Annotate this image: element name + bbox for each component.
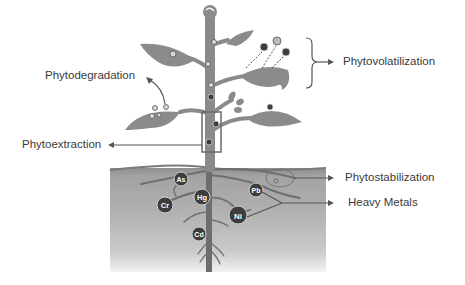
stem bbox=[203, 5, 217, 172]
metal-label-as: As bbox=[177, 176, 186, 183]
bud-2 bbox=[235, 97, 245, 106]
metal-label-pb: Pb bbox=[252, 187, 261, 194]
label-heavy-metals: Heavy Metals bbox=[348, 197, 418, 209]
soil-block bbox=[110, 165, 326, 272]
leaf-mid-right bbox=[240, 67, 289, 90]
taproot bbox=[206, 168, 212, 272]
label-phytostabilization: Phytostabilization bbox=[345, 172, 435, 184]
metal-label-cd: Cd bbox=[194, 231, 203, 238]
metal-label-cr: Cr bbox=[161, 201, 169, 210]
label-phytodegradation: Phytodegradation bbox=[45, 70, 135, 82]
bud-3 bbox=[234, 107, 242, 113]
label-phytovolatilization: Phytovolatilization bbox=[343, 56, 435, 68]
leaf-lower-right bbox=[247, 111, 302, 127]
label-phytoextraction: Phytoextraction bbox=[22, 139, 101, 151]
metal-label-ni: Ni bbox=[234, 212, 242, 221]
phytoremediation-diagram: As Hg Cr Pb Ni Cd bbox=[0, 0, 465, 285]
phytodegradation-arrow bbox=[150, 80, 165, 104]
phytovolatilization-brace bbox=[306, 38, 318, 88]
volatilization-ions bbox=[246, 37, 290, 68]
leaf-top-right bbox=[226, 30, 254, 46]
metal-label-hg: Hg bbox=[197, 193, 207, 202]
leaf-upper-left bbox=[140, 44, 195, 67]
